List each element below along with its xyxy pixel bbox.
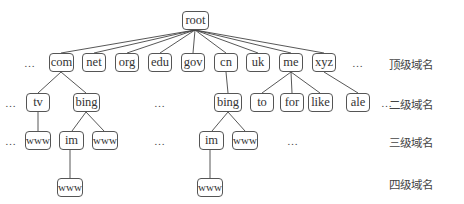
node-cn: cn [214, 53, 238, 72]
ellipsis-level3-right: … [287, 135, 298, 147]
node-like: like [308, 93, 333, 112]
node-www-bing-cn: www [232, 131, 258, 150]
ellipsis-level2-left: … [5, 97, 16, 109]
node-tv: tv [26, 93, 50, 112]
node-bing-cn: bing [214, 93, 242, 112]
node-net: net [82, 53, 106, 72]
label-second-level-domain: 二级域名 [389, 96, 433, 112]
node-root: root [182, 11, 209, 30]
node-xyz: xyz [312, 53, 336, 72]
node-to: to [250, 93, 274, 112]
node-ale: ale [346, 93, 370, 112]
node-edu: edu [148, 53, 172, 72]
node-gov: gov [181, 53, 205, 72]
node-www-bing-com: www [92, 131, 118, 150]
node-im-com: im [59, 131, 84, 150]
node-for: for [280, 93, 304, 112]
node-im-cn: im [199, 131, 224, 150]
node-www-im-cn: www [197, 178, 223, 197]
node-org: org [115, 53, 139, 72]
ellipsis-level1-left: … [24, 57, 35, 69]
node-www-im-com: www [57, 178, 83, 197]
node-me: me [279, 53, 303, 72]
ellipsis-level3-left: … [5, 135, 16, 147]
node-www-tv: www [25, 131, 51, 150]
label-fourth-level-domain: 四级域名 [389, 176, 433, 192]
node-com: com [49, 53, 74, 72]
ellipsis-level2-mid: … [154, 97, 165, 109]
ellipsis-level1-right: … [352, 57, 363, 69]
ellipsis-level3-mid: … [154, 135, 165, 147]
label-top-level-domain: 顶级域名 [389, 56, 433, 72]
node-uk: uk [246, 53, 270, 72]
label-third-level-domain: 三级域名 [389, 134, 433, 150]
node-bing-com: bing [73, 93, 100, 112]
